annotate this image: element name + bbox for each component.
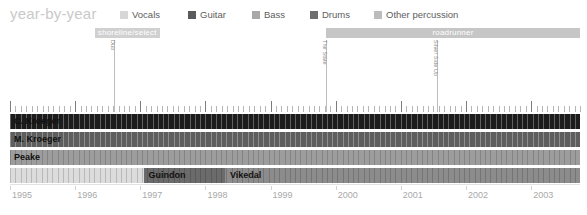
month-tick (178, 106, 179, 112)
month-tick (319, 106, 320, 112)
table-row[interactable]: M. Kroeger (10, 132, 580, 147)
month-tick (173, 106, 174, 112)
month-tick (303, 106, 304, 112)
month-tick (119, 106, 120, 112)
month-tick (330, 106, 331, 112)
month-tick (347, 106, 348, 112)
year-tick (336, 101, 337, 112)
month-tick (238, 106, 239, 112)
row-bar-peake (10, 150, 580, 165)
axis-tick-label: 2000 (338, 190, 358, 200)
month-tick (97, 106, 98, 112)
month-tick (412, 106, 413, 112)
album-label-dub: Dub (110, 40, 116, 50)
axis-tick (75, 186, 76, 190)
month-tick (167, 106, 168, 112)
month-tick (428, 106, 429, 112)
month-tick (292, 106, 293, 112)
legend-swatch-other-percussion (374, 11, 382, 19)
month-tick (352, 106, 353, 112)
month-tick (569, 106, 570, 112)
month-tick (477, 106, 478, 112)
month-tick (243, 106, 244, 112)
month-tick (135, 106, 136, 112)
legend-item-guitar[interactable]: Guitar (188, 8, 226, 22)
month-tick (64, 106, 65, 112)
month-tick (276, 106, 277, 112)
month-tick (222, 106, 223, 112)
legend-item-drums[interactable]: Drums (310, 8, 350, 22)
month-tick (37, 106, 38, 112)
month-tick (102, 106, 103, 112)
legend-item-other-percussion[interactable]: Other percussion (374, 8, 458, 22)
month-tick (341, 106, 342, 112)
legend-item-vocals[interactable]: Vocals (120, 8, 160, 22)
legend-item-bass[interactable]: Bass (252, 8, 285, 22)
month-tick (439, 106, 440, 112)
month-tick (195, 106, 196, 112)
era-band-shoreline-select[interactable]: shoreline/select (95, 28, 160, 38)
month-tick (21, 106, 22, 112)
month-tick (553, 106, 554, 112)
legend-swatch-bass (252, 11, 260, 19)
month-tick (379, 106, 380, 112)
axis-tick-label: 1999 (273, 190, 293, 200)
month-tick (504, 106, 505, 112)
table-row[interactable]: C. Kroeger (10, 114, 580, 129)
row-bar-vikedal (225, 168, 580, 183)
month-tick (564, 106, 565, 112)
month-tick (515, 106, 516, 112)
month-tick (281, 106, 282, 112)
month-tick (499, 106, 500, 112)
month-tick (575, 106, 576, 112)
month-tick (385, 106, 386, 112)
month-tick (482, 106, 483, 112)
month-tick (558, 106, 559, 112)
month-tick (423, 106, 424, 112)
timeline-plot: shoreline/select roadrunner Dub The Stat… (0, 26, 587, 215)
month-tick (417, 106, 418, 112)
month-tick (287, 106, 288, 112)
month-tick (249, 106, 250, 112)
era-band-roadrunner[interactable]: roadrunner (326, 28, 580, 38)
month-tick (91, 106, 92, 112)
row-separator (10, 147, 580, 150)
legend-label-vocals: Vocals (132, 10, 160, 20)
row-label-m-kroeger: M. Kroeger (14, 132, 61, 147)
axis-line (10, 184, 580, 185)
month-tick (211, 106, 212, 112)
month-tick (227, 106, 228, 112)
axis-tick-label: 1995 (12, 190, 32, 200)
month-tick (81, 106, 82, 112)
axis-tick-label: 2002 (468, 190, 488, 200)
month-tick (70, 106, 71, 112)
month-tick (363, 106, 364, 112)
month-tick (157, 106, 158, 112)
year-tick (140, 101, 141, 112)
month-tick (450, 106, 451, 112)
x-axis: 199519961997199819992000200120022003 (10, 186, 580, 208)
row-bar-c-kroeger (10, 114, 580, 129)
month-tick (395, 106, 396, 112)
month-tick (53, 106, 54, 112)
row-separator (10, 165, 580, 168)
table-row[interactable]: Guindon Vikedal (10, 168, 580, 183)
month-tick (526, 106, 527, 112)
month-tick (309, 106, 310, 112)
year-tick (531, 101, 532, 112)
year-tick (205, 101, 206, 112)
month-tick (129, 106, 130, 112)
month-tick (471, 106, 472, 112)
axis-tick (271, 186, 272, 190)
month-tick (493, 106, 494, 112)
month-tick (254, 106, 255, 112)
axis-tick-label: 1998 (207, 190, 227, 200)
month-tick (48, 106, 49, 112)
table-row[interactable]: Peake (10, 150, 580, 165)
month-tick (537, 106, 538, 112)
row-label-guindon: Guindon (149, 168, 186, 183)
year-tick (401, 101, 402, 112)
year-tick (466, 101, 467, 112)
month-tick (520, 106, 521, 112)
axis-tick (401, 186, 402, 190)
